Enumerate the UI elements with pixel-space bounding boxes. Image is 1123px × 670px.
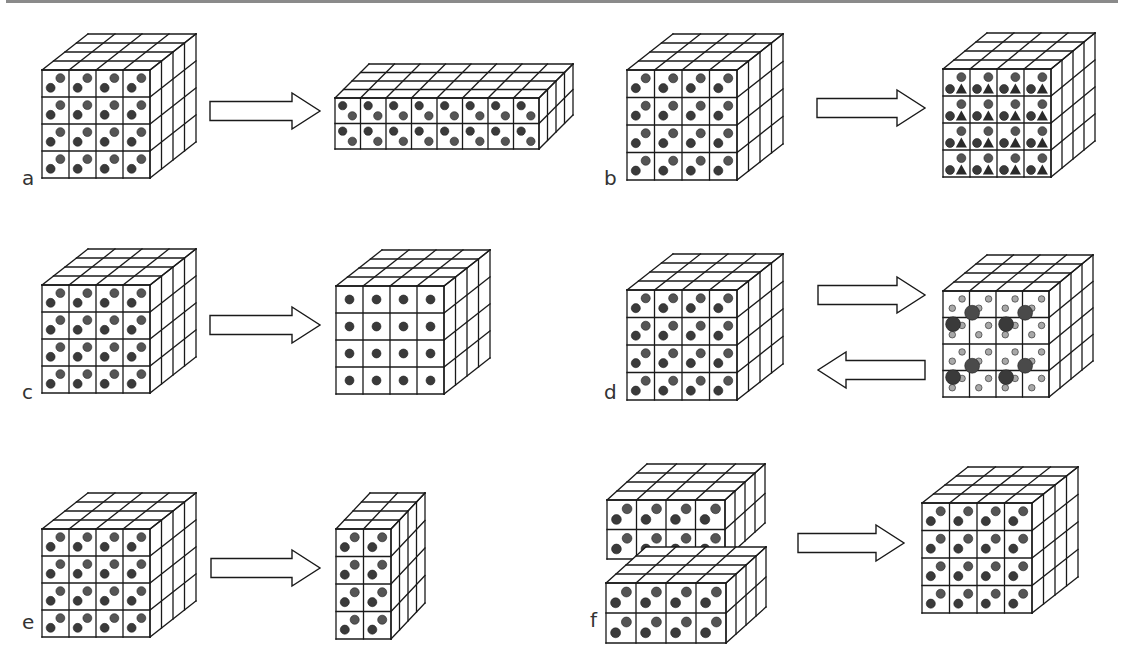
arrow-right-icon: [210, 307, 320, 343]
cube-block: [627, 34, 783, 180]
cube-transformation-diagram: [0, 0, 1123, 670]
arrow-right-icon: [210, 93, 320, 129]
cube-block: [335, 64, 573, 149]
panel-label-c: c: [22, 382, 33, 402]
panel-label-a: a: [22, 168, 34, 188]
arrow-right-icon: [818, 277, 925, 313]
cube-block: [336, 493, 425, 639]
panel-label-f: f: [590, 610, 597, 630]
panel-label-b: b: [604, 168, 617, 188]
arrow-right-icon: [211, 550, 320, 586]
cube-block: [42, 34, 196, 178]
cube-block: [336, 250, 490, 394]
cube-block: [627, 254, 783, 400]
arrow-right-icon: [817, 90, 925, 126]
cube-block: [943, 255, 1093, 397]
arrow-left-icon: [818, 352, 925, 388]
arrow-right-icon: [798, 525, 904, 561]
panel-label-d: d: [604, 382, 617, 402]
cube-block: [607, 464, 765, 559]
cube-block: [606, 547, 766, 643]
panel-label-e: e: [22, 612, 34, 632]
cube-block: [943, 33, 1095, 177]
cube-block: [42, 249, 196, 393]
cube-block: [922, 467, 1078, 613]
cube-block: [42, 493, 196, 637]
